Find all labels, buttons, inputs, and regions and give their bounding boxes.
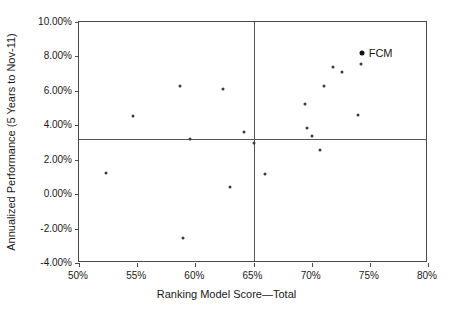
y-tick (75, 91, 79, 92)
data-point (252, 142, 255, 145)
x-tick-label: 70% (301, 270, 321, 281)
x-tick (428, 263, 429, 267)
data-point (264, 173, 267, 176)
x-tick-label: 80% (417, 270, 437, 281)
data-point (340, 70, 343, 73)
data-point (229, 186, 232, 189)
data-point (303, 103, 306, 106)
x-tick (79, 263, 80, 267)
x-tick (370, 263, 371, 267)
y-axis-title-container: Annualized Performance (5 Years to Nov-1… (0, 0, 22, 283)
x-tick-label: 60% (184, 270, 204, 281)
data-point (131, 115, 134, 118)
data-point (331, 65, 334, 68)
data-point (318, 149, 321, 152)
y-tick (75, 22, 79, 23)
x-tick-label: 50% (68, 270, 88, 281)
x-axis-title: Ranking Model Score—Total (0, 288, 453, 300)
y-tick (75, 56, 79, 57)
y-tick (75, 229, 79, 230)
x-tick-label: 75% (359, 270, 379, 281)
x-tick (312, 263, 313, 267)
y-tick-label: 2.00% (28, 153, 72, 164)
y-tick-label: 4.00% (28, 119, 72, 130)
data-point (181, 236, 184, 239)
data-point (359, 63, 362, 66)
data-point (310, 135, 313, 138)
x-tick (137, 263, 138, 267)
data-point (323, 85, 326, 88)
y-tick (75, 160, 79, 161)
data-point (306, 127, 309, 130)
data-point (179, 85, 182, 88)
data-point (104, 171, 107, 174)
data-point (357, 114, 360, 117)
data-point (359, 50, 364, 55)
y-tick-label: -4.00% (28, 257, 72, 268)
y-tick (75, 125, 79, 126)
data-point (243, 130, 246, 133)
data-point (188, 137, 191, 140)
data-point-label: FCM (369, 47, 393, 59)
y-tick (75, 263, 79, 264)
y-tick-label: 10.00% (28, 16, 72, 27)
y-tick-label: 8.00% (28, 50, 72, 61)
y-axis-title: Annualized Performance (5 Years to Nov-1… (5, 33, 17, 250)
scatter-chart-figure: Annualized Performance (5 Years to Nov-1… (0, 0, 453, 311)
x-tick-label: 65% (242, 270, 262, 281)
y-tick-label: -2.00% (28, 222, 72, 233)
plot-area: FCM (78, 21, 427, 262)
x-tick (195, 263, 196, 267)
x-tick-label: 55% (126, 270, 146, 281)
y-tick-label: 0.00% (28, 188, 72, 199)
reference-line-median-performance (79, 139, 426, 140)
data-point (222, 87, 225, 90)
x-tick (254, 263, 255, 267)
y-tick-label: 6.00% (28, 84, 72, 95)
y-tick (75, 194, 79, 195)
